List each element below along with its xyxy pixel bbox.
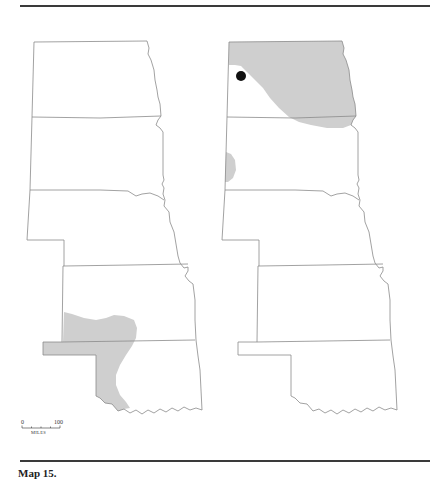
figure-caption: Map 15. [18, 468, 57, 479]
bottom-rule [20, 460, 430, 462]
right-map-range-shading-west [225, 152, 236, 182]
scale-min-label: 0 [21, 419, 24, 425]
left-map-range-shading [43, 312, 137, 411]
scale-unit-label: MILES [31, 430, 46, 435]
record-point-marker [236, 71, 246, 81]
scale-bar: 0 100 MILES [21, 419, 63, 435]
right-map-range-shading-north [229, 41, 356, 128]
left-map [27, 41, 202, 414]
range-maps: 0 100 MILES [0, 0, 445, 460]
caption-label: Map 15. [18, 467, 57, 479]
right-map [222, 41, 397, 414]
scale-max-label: 100 [54, 419, 63, 425]
